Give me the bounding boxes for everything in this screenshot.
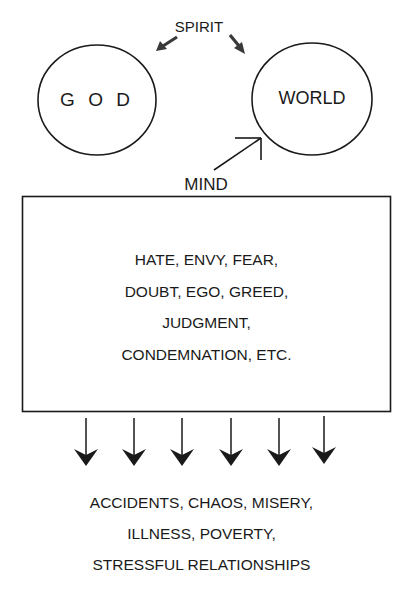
world-label: WORLD	[252, 89, 372, 107]
mind-box-line: JUDGMENT,	[22, 307, 391, 339]
down-arrow-icon	[312, 416, 336, 464]
mind-box-line: DOUBT, EGO, GREED,	[22, 276, 391, 308]
down-arrows	[74, 416, 336, 466]
mind-box-contents: HATE, ENVY, FEAR, DOUBT, EGO, GREED, JUD…	[22, 244, 391, 371]
spirit-arrow-right-icon	[230, 35, 245, 54]
down-arrow-icon	[219, 418, 243, 466]
spirit-label: SPIRIT	[149, 19, 249, 34]
outcome-line: STRESSFUL RELATIONSHIPS	[0, 549, 403, 580]
spirit-arrow-left-icon	[156, 37, 177, 51]
god-label: G O D	[40, 90, 154, 109]
mind-box-line: HATE, ENVY, FEAR,	[22, 244, 391, 276]
mind-label: MIND	[156, 176, 256, 193]
down-arrow-icon	[122, 418, 146, 466]
outcome-line: ACCIDENTS, CHAOS, MISERY,	[0, 487, 403, 518]
mind-box-line: CONDEMNATION, ETC.	[22, 339, 391, 371]
down-arrow-icon	[170, 418, 194, 466]
outcome-line: ILLNESS, POVERTY,	[0, 518, 403, 549]
mind-arrow-icon	[214, 138, 261, 170]
outcomes: ACCIDENTS, CHAOS, MISERY, ILLNESS, POVER…	[0, 487, 403, 580]
down-arrow-icon	[267, 418, 291, 466]
down-arrow-icon	[74, 418, 98, 466]
